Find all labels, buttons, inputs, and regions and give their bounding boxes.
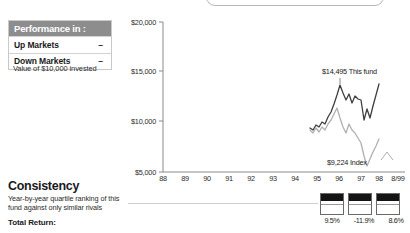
y-tick-label: $5,000: [116, 169, 156, 176]
quartile-divider: [377, 204, 399, 205]
y-tick-label: $20,000: [116, 19, 156, 26]
series-fund-line: [310, 84, 379, 130]
x-tick-label: 91: [219, 175, 239, 182]
x-tick-label: 8/99: [387, 175, 409, 182]
consistency-subtitle: Year-by-year quartile ranking of this fu…: [8, 194, 120, 213]
quartile-divider: [321, 204, 343, 205]
quartile-box: [376, 193, 400, 215]
consistency-block: Consistency Year-by-year quartile rankin…: [8, 180, 126, 227]
quartile-value: 8.6%: [382, 216, 410, 225]
quartile-values: 9.5% -11.9% 8.6%: [318, 216, 410, 225]
total-return-label: Total Return:: [8, 218, 126, 227]
x-tick-label: 90: [197, 175, 217, 182]
x-tick-label: 94: [285, 175, 305, 182]
consistency-title: Consistency: [8, 180, 126, 193]
x-tick-label: 95: [307, 175, 327, 182]
fund-performance-panel: Performance in : Up Markets – Down Marke…: [0, 0, 410, 233]
quartile-fill: [377, 194, 399, 201]
x-tick-label: 93: [263, 175, 283, 182]
quartile-box: [348, 193, 372, 215]
index-label-leader: [387, 152, 393, 160]
quartile-box: [320, 193, 344, 215]
index-value-annotation: $9,224 Index: [327, 159, 367, 166]
fund-value-annotation: $14,495 This fund: [322, 68, 377, 75]
x-tick-label: 98: [369, 175, 389, 182]
x-tick-label: 96: [329, 175, 349, 182]
quartile-fill: [349, 194, 371, 201]
y-tick-label: $10,000: [116, 118, 156, 125]
y-tick-label: $15,000: [116, 68, 156, 75]
consistency-rule: [128, 203, 318, 204]
x-tick-label: 88: [153, 175, 173, 182]
quartile-boxes: [320, 193, 400, 215]
x-tick-label: 97: [351, 175, 371, 182]
quartile-fill: [321, 194, 343, 201]
quartile-divider: [349, 204, 371, 205]
quartile-value: -11.9%: [350, 216, 378, 225]
x-tick-label: 92: [241, 175, 261, 182]
quartile-value: 9.5%: [318, 216, 346, 225]
x-tick-label: 89: [175, 175, 195, 182]
index-label-leader: [381, 152, 387, 160]
